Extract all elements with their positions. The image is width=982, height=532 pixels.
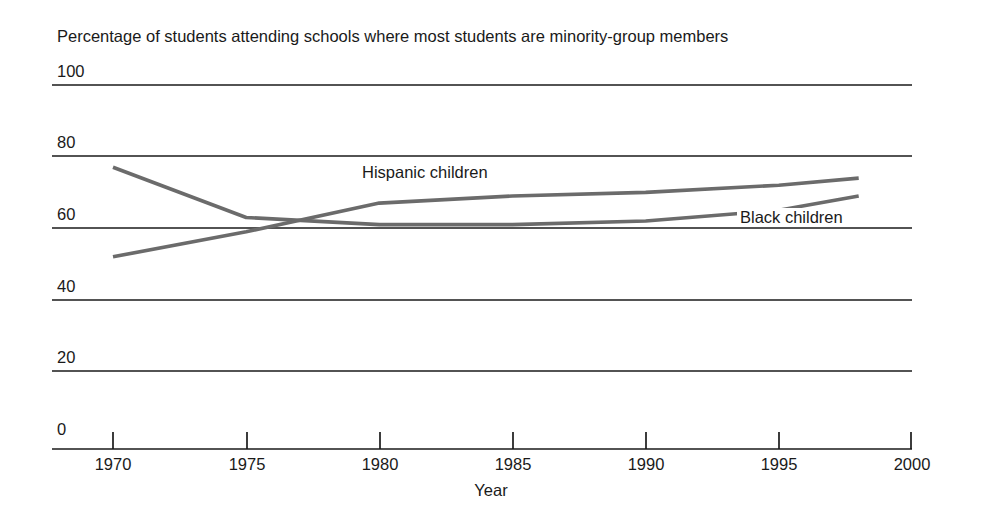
y-tick-label-40: 40 <box>57 277 75 296</box>
x-tick-label-1985: 1985 <box>473 455 553 474</box>
y-tick-label-0: 0 <box>57 420 66 439</box>
series-annotation-hispanic-children: Hispanic children <box>359 163 491 182</box>
x-axis <box>52 432 912 449</box>
x-tick-label-1990: 1990 <box>606 455 686 474</box>
x-tick-label-1995: 1995 <box>739 455 819 474</box>
x-tick-label-1970: 1970 <box>73 455 153 474</box>
x-tick-label-1975: 1975 <box>207 455 287 474</box>
gridlines <box>52 85 912 371</box>
x-tick-label-2000: 2000 <box>872 455 952 474</box>
x-axis-title: Year <box>0 481 982 500</box>
y-tick-label-100: 100 <box>57 62 85 81</box>
y-tick-label-20: 20 <box>57 348 75 367</box>
y-tick-label-80: 80 <box>57 133 75 152</box>
plot-area <box>0 0 982 532</box>
chart-figure: Percentage of students attending schools… <box>0 0 982 532</box>
x-tick-label-1980: 1980 <box>340 455 420 474</box>
series-annotation-black-children: Black children <box>737 208 846 227</box>
y-tick-label-60: 60 <box>57 205 75 224</box>
